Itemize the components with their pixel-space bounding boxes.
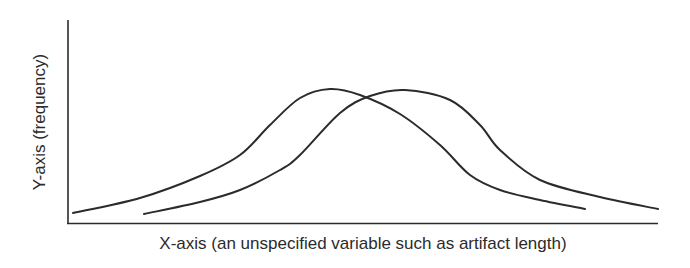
chart — [0, 0, 690, 268]
x-axis-label: X-axis (an unspecified variable such as … — [68, 234, 658, 254]
curve-distribution-a — [73, 89, 585, 213]
y-axis-label-text: Y-axis (frequency) — [30, 54, 50, 190]
curve-distribution-b — [144, 90, 658, 214]
